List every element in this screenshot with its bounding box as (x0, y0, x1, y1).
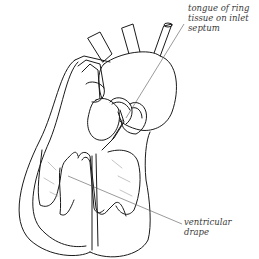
label-line: drape (184, 227, 232, 237)
leader-tongue (126, 24, 184, 118)
label-line: tissue on inlet (188, 13, 249, 23)
leader-drape (68, 176, 182, 224)
label-line: tongue of ring (188, 3, 249, 13)
label-ventricular-drape: ventricular drape (184, 217, 232, 237)
heart-diagram: tongue of ring tissue on inlet septum ve… (0, 0, 259, 259)
label-line: ventricular (184, 217, 232, 227)
label-tongue-of-ring-tissue: tongue of ring tissue on inlet septum (188, 3, 249, 33)
label-line: septum (188, 23, 249, 33)
